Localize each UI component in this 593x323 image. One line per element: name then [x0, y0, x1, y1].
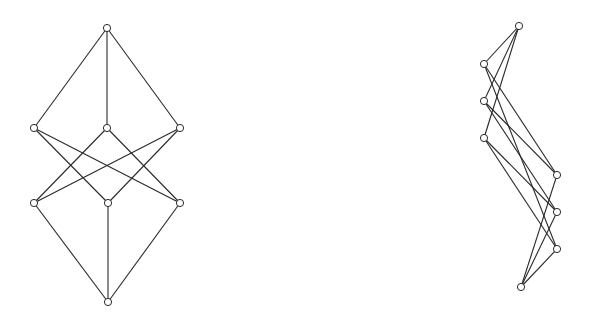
edge-R2-bottom: [108, 203, 180, 302]
right-graph: [480, 22, 560, 290]
edge-L2-R2: [484, 101, 557, 212]
edge-top-L1: [34, 28, 107, 128]
edge-R2-bottom: [521, 212, 557, 287]
node-bottom: [104, 298, 111, 305]
node-L2: [480, 97, 487, 104]
node-L3: [480, 134, 487, 141]
edge-L3-R2: [484, 138, 557, 212]
edge-R1-bottom: [521, 175, 557, 287]
node-R2: [176, 199, 183, 206]
edge-L2-bottom: [34, 203, 108, 302]
edge-top-L3: [484, 26, 519, 138]
node-L2: [30, 199, 37, 206]
node-M1: [103, 124, 110, 131]
node-R1: [176, 124, 183, 131]
node-bottom: [517, 283, 524, 290]
edge-top-L1: [484, 26, 519, 64]
left-graph: [30, 24, 183, 305]
edge-L1-R1: [484, 64, 557, 175]
node-M2: [104, 199, 111, 206]
node-top: [515, 22, 522, 29]
edge-L2-R1: [484, 101, 557, 175]
node-top: [103, 24, 110, 31]
graph-diagram-canvas: [0, 0, 593, 323]
node-L1: [30, 124, 37, 131]
node-R2: [553, 208, 560, 215]
node-L1: [480, 60, 487, 67]
edge-R3-bottom: [521, 249, 557, 287]
node-R3: [553, 245, 560, 252]
edge-top-R1: [107, 28, 180, 128]
edge-L3-R3: [484, 138, 557, 249]
node-R1: [553, 171, 560, 178]
